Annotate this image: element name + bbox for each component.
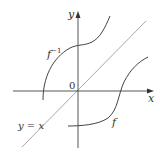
- f-inverse-curve: [43, 16, 110, 100]
- y-axis-arrow-icon: [76, 11, 81, 18]
- f-curve: [68, 57, 148, 126]
- y-axis-label: y: [67, 8, 75, 21]
- x-axis-label: x: [148, 92, 155, 105]
- identity-line-label: y = x: [17, 120, 44, 131]
- inverse-function-diagram: y x 0 f−1 f y = x: [0, 0, 160, 156]
- f-label: f: [111, 116, 118, 129]
- f-inverse-label: f−1: [46, 47, 61, 61]
- origin-label: 0: [69, 80, 75, 91]
